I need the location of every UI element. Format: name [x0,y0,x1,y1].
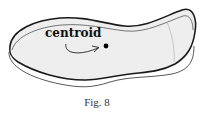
figure-caption: Fig. 8 [84,96,110,108]
slab-top-surface [10,9,196,80]
centroid-dot [104,44,109,49]
centroid-diagram: centroid Fig. 8 [0,0,209,113]
centroid-label: centroid [45,26,102,40]
